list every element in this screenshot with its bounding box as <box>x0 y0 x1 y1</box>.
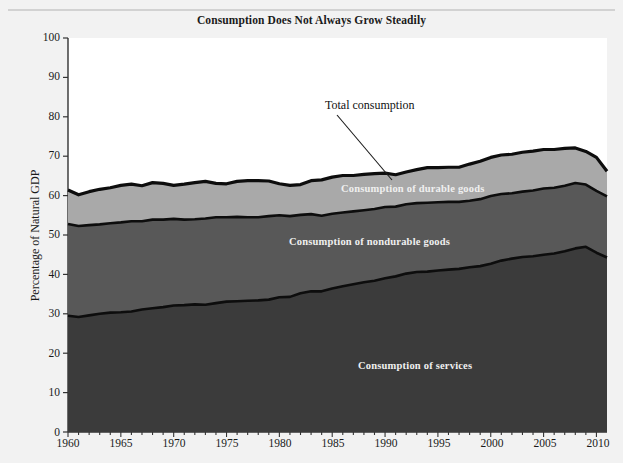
chart-figure: Consumption Does Not Always Grow Steadil… <box>0 0 623 463</box>
total-consumption-label: Total consumption <box>325 98 414 113</box>
nondurable-goods-label: Consumption of nondurable goods <box>289 236 450 247</box>
y-tick-marks <box>63 38 68 432</box>
plot-area <box>0 0 623 463</box>
services-label: Consumption of services <box>358 360 472 371</box>
x-tick-marks <box>68 432 596 437</box>
durable-goods-label: Consumption of durable goods <box>341 183 485 194</box>
